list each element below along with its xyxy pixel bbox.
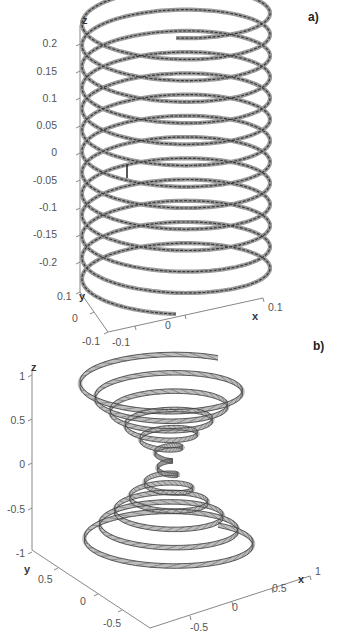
z-tick-b: -1 — [16, 548, 25, 559]
z-axis-name-a: z — [82, 15, 88, 26]
z-tick-a: 0.15 — [37, 66, 57, 77]
z-tick-b: 0 — [19, 459, 25, 470]
x-axis-name-b: x — [298, 574, 304, 585]
z-tick-a: -0.2 — [39, 257, 57, 268]
panel-a-cylindrical-helix: a) z y x 0.2 0.15 0.1 0.05 0 -0.05 -0.1 … — [0, 0, 341, 340]
z-tick-a: 0.1 — [42, 93, 57, 104]
y-tick-b: 0.5 — [38, 574, 53, 585]
panel-b-conical-helix: b) z y x 1 0.5 0 -0.5 -1 0.5 0 -0.5 -0.5… — [0, 340, 341, 638]
x-tick-b: -0.5 — [190, 622, 208, 633]
z-tick-a: 0.2 — [42, 38, 57, 49]
y-tick-b: -0.5 — [103, 618, 121, 629]
panel-label-b: b) — [313, 340, 324, 352]
helix-plot-b — [0, 340, 341, 638]
z-tick-a: -0.15 — [33, 229, 57, 240]
x-tick-b: 1 — [315, 566, 321, 577]
x-tick-a: 0.1 — [268, 302, 283, 313]
z-tick-a: -0.05 — [33, 175, 57, 186]
panel-label-a: a) — [308, 11, 319, 23]
z-tick-a: 0 — [51, 147, 57, 158]
y-axis-name-a: y — [79, 291, 85, 302]
helix-ribbon-b — [80, 352, 253, 568]
z-tick-b: -0.5 — [7, 504, 25, 515]
helix-plot-a — [0, 0, 341, 340]
y-axis-name-b: y — [24, 564, 30, 575]
x-tick-a: 0 — [165, 320, 171, 331]
x-tick-b: 0 — [232, 602, 238, 613]
y-tick-b: 0 — [80, 596, 86, 607]
z-tick-a: 0.05 — [37, 120, 57, 131]
y-tick-a: 0 — [72, 313, 78, 324]
x-tick-b: 0.5 — [272, 583, 287, 594]
x-axis-name-a: x — [252, 311, 258, 322]
z-axis-name-b: z — [31, 362, 37, 373]
helix-ribbon-a — [82, 0, 270, 314]
z-tick-a: -0.1 — [39, 202, 57, 213]
y-tick-a: 0.1 — [57, 291, 72, 302]
z-tick-b: 0.5 — [10, 415, 25, 426]
z-tick-b: 1 — [19, 371, 25, 382]
